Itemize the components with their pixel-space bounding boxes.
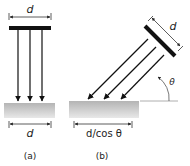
source-width-label: d: [27, 3, 35, 16]
surface: [4, 103, 55, 118]
source-width-label: d: [170, 20, 178, 33]
panel-a: d d (a): [4, 3, 55, 161]
source-width-dimension: d: [9, 3, 51, 20]
caption-b: (b): [96, 151, 109, 161]
surface-width-label: d/cos θ: [86, 128, 122, 139]
light-source-bar: [9, 26, 51, 30]
panel-b: d θ d/cos θ (b): [69, 16, 183, 161]
rays: [88, 39, 164, 99]
surface-width-dimension: d/cos θ: [74, 121, 132, 139]
surface: [69, 101, 139, 118]
caption-a: (a): [24, 151, 37, 161]
rays: [18, 30, 42, 101]
surface-width-dimension: d: [9, 121, 51, 140]
surface-width-label: d: [27, 127, 35, 140]
angle-label: θ: [169, 77, 175, 87]
incidence-diagram: d d (a): [0, 0, 190, 166]
angle-theta: θ: [158, 77, 175, 101]
